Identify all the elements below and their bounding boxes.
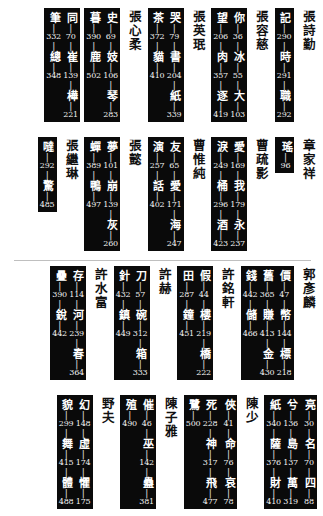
page-number[interactable]: 357 [213,72,228,80]
page-number[interactable]: 36 [233,33,243,41]
keyword-char[interactable]: 書 [168,51,181,62]
page-number[interactable]: 103 [230,111,245,119]
page-number[interactable]: 101 [103,162,118,170]
page-number[interactable]: 287 [179,291,194,299]
page-number[interactable]: 70 [304,459,314,467]
keyword-char[interactable]: 死 [204,399,217,410]
page-number[interactable]: 139 [103,201,118,209]
keyword-char[interactable]: 桶 [215,180,228,191]
keyword-char[interactable]: 大 [232,90,245,101]
keyword-char[interactable]: 酒 [215,219,228,230]
keyword-char[interactable]: 殖 [124,399,137,410]
page-number[interactable]: 381 [139,498,154,506]
keyword-char[interactable]: 職 [278,90,291,101]
page-number[interactable]: 364 [69,369,84,377]
page-number[interactable]: 79 [169,33,179,41]
page-number[interactable]: 249 [213,162,228,170]
page-number[interactable]: 423 [213,240,228,248]
page-number[interactable]: 106 [103,72,118,80]
keyword-char[interactable]: 箱 [134,348,147,359]
page-number[interactable]: 340 [266,420,281,428]
keyword-char[interactable]: 鎮 [117,309,130,320]
keyword-char[interactable]: 針 [117,270,130,281]
page-number[interactable]: 290 [277,33,292,41]
author-name[interactable]: 陳少 [239,393,263,425]
page-number[interactable]: 47 [279,291,289,299]
keyword-char[interactable]: 灰 [105,219,118,230]
author-name[interactable]: 曹惟純 [186,135,210,182]
page-number[interactable]: 136 [283,420,298,428]
page-number[interactable]: 390 [52,291,67,299]
keyword-char[interactable]: 淚 [215,141,228,152]
keyword-char[interactable]: 財 [268,477,281,488]
page-number[interactable]: 69 [106,33,116,41]
keyword-char[interactable]: 紙 [168,90,181,101]
keyword-char[interactable]: 命 [223,438,236,449]
page-number[interactable]: 442 [243,291,258,299]
keyword-char[interactable]: 薩 [268,438,281,449]
keyword-char[interactable]: 飛 [204,477,217,488]
keyword-char[interactable]: 蟬 [88,141,101,152]
keyword-char[interactable]: 逐 [215,90,228,101]
page-number[interactable]: 488 [59,498,74,506]
keyword-char[interactable]: 冰 [232,51,245,62]
author-name[interactable]: 章家祥 [296,135,320,182]
author-name[interactable]: 許赫 [152,264,176,296]
page-number[interactable]: 148 [76,420,91,428]
keyword-char[interactable]: 舞 [60,438,73,449]
page-number[interactable]: 348 [46,72,61,80]
keyword-char[interactable]: 貓 [151,51,164,62]
page-number[interactable]: 312 [133,330,148,338]
keyword-char[interactable]: 價 [278,270,291,281]
page-number[interactable]: 144 [277,330,292,338]
keyword-char[interactable]: 愛 [168,180,181,191]
keyword-char[interactable]: 樺 [65,90,78,101]
page-number[interactable]: 257 [150,162,165,170]
page-number[interactable]: 221 [63,111,78,119]
keyword-char[interactable]: 四 [303,477,316,488]
page-number[interactable]: 55 [233,72,243,80]
keyword-char[interactable]: 幣 [278,309,291,320]
keyword-char[interactable]: 標 [278,348,291,359]
keyword-char[interactable]: 兮 [285,399,298,410]
author-name[interactable]: 陳子雅 [158,393,182,440]
page-number[interactable]: 390 [86,33,101,41]
page-number[interactable]: 41 [224,420,234,428]
author-name[interactable]: 曹疏影 [249,135,273,182]
page-number[interactable]: 365 [260,291,275,299]
keyword-char[interactable]: 望 [215,12,228,23]
page-number[interactable]: 283 [103,111,118,119]
keyword-char[interactable]: 你 [232,12,245,23]
page-number[interactable]: 410 [150,72,165,80]
page-number[interactable]: 413 [260,330,275,338]
page-number[interactable]: 419 [213,111,228,119]
keyword-char[interactable]: 演 [151,141,164,152]
page-number[interactable]: 137 [283,459,298,467]
page-number[interactable]: 317 [203,459,218,467]
page-number[interactable]: 449 [116,330,131,338]
page-number[interactable]: 219 [196,330,211,338]
keyword-char[interactable]: 巫 [141,438,154,449]
keyword-char[interactable]: 鷺 [187,399,200,410]
keyword-char[interactable]: 紙 [268,399,281,410]
keyword-char[interactable]: 刀 [134,270,147,281]
keyword-char[interactable]: 崔 [65,51,78,62]
page-number[interactable]: 372 [150,33,165,41]
page-number[interactable]: 432 [116,291,131,299]
keyword-char[interactable]: 同 [65,12,78,23]
page-number[interactable]: 291 [277,72,292,80]
page-number[interactable]: 296 [213,201,228,209]
author-name[interactable]: 張繼琳 [59,135,83,182]
page-number[interactable]: 78 [224,498,234,506]
page-number[interactable]: 70 [66,33,76,41]
keyword-char[interactable]: 肉 [215,51,228,62]
page-number[interactable]: 299 [59,420,74,428]
author-name[interactable]: 張懿 [122,135,146,167]
page-number[interactable]: 466 [243,330,258,338]
page-number[interactable]: 30 [304,420,314,428]
page-number[interactable]: 502 [86,72,101,80]
keyword-char[interactable]: 總 [48,51,61,62]
keyword-char[interactable]: 鹿 [88,51,101,62]
keyword-char[interactable]: 河 [71,309,84,320]
keyword-char[interactable]: 假 [198,270,211,281]
